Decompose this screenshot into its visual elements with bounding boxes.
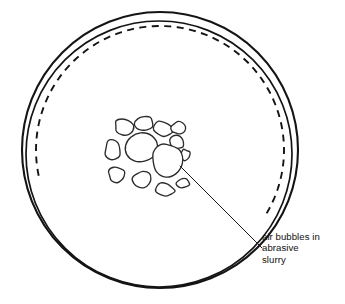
bubble-n2 — [134, 117, 153, 131]
diagram-canvas: air bubbles in abrasive slurry — [0, 0, 345, 304]
bubble-s3 — [176, 178, 190, 187]
bubble-big-se — [153, 144, 183, 177]
bubble-n1 — [116, 119, 134, 135]
bubble-w2 — [108, 167, 124, 183]
annotation-line-3: slurry — [262, 254, 342, 265]
bubble-w1 — [105, 140, 120, 160]
bubble-annotation: air bubbles in abrasive slurry — [262, 231, 342, 265]
air-bubble-cluster — [105, 117, 190, 197]
annotation-line-1: air bubbles in — [262, 231, 342, 242]
bubble-s2 — [156, 183, 176, 196]
bubble-ne — [171, 121, 186, 134]
annotation-leader-line — [180, 166, 262, 248]
bubble-s1 — [132, 171, 151, 187]
annotation-line-2: abrasive — [262, 242, 342, 253]
